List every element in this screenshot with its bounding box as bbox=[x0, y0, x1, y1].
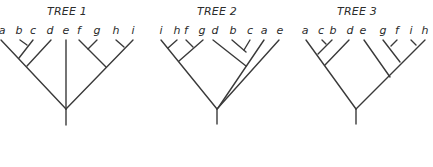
tree-title: TREE 1 bbox=[47, 5, 87, 18]
leaf-label-f: f bbox=[77, 24, 83, 37]
leaf-label-i: i bbox=[131, 24, 134, 37]
leaf-label-b: b bbox=[330, 24, 337, 37]
branches bbox=[161, 40, 279, 124]
tree-title: TREE 3 bbox=[337, 5, 377, 18]
leaf-label-g: g bbox=[380, 24, 387, 37]
leaf-label-h: h bbox=[113, 24, 120, 37]
leaf-label-d: d bbox=[347, 24, 355, 37]
leaf-labels: abcdefghi bbox=[0, 24, 135, 37]
leaf-label-i: i bbox=[409, 24, 412, 37]
branch-line bbox=[322, 40, 326, 44]
leaf-label-e: e bbox=[277, 24, 284, 37]
leaf-label-d: d bbox=[47, 24, 55, 37]
leaf-label-c: c bbox=[30, 24, 36, 37]
branch-line bbox=[213, 40, 246, 66]
branches bbox=[1, 40, 133, 125]
branch-line bbox=[66, 40, 133, 109]
leaf-label-c: c bbox=[247, 24, 253, 37]
leaf-label-a: a bbox=[0, 24, 6, 37]
branch-line bbox=[411, 40, 416, 45]
branch-line bbox=[364, 40, 390, 77]
branch-line bbox=[1, 40, 66, 109]
phylogenetic-trees-diagram: TREE 1 abcdefghi TREE 2 ihfgdbcae TREE 3… bbox=[0, 0, 433, 167]
tree-2: TREE 2 ihfgdbcae bbox=[159, 5, 283, 124]
branch-line bbox=[116, 40, 124, 47]
branches bbox=[306, 40, 425, 124]
leaf-label-f: f bbox=[184, 24, 190, 37]
leaf-label-a: a bbox=[261, 24, 268, 37]
tree-3: TREE 3 acbdegfih bbox=[302, 5, 429, 124]
leaf-label-c: c bbox=[318, 24, 324, 37]
branch-line bbox=[306, 40, 356, 109]
branch-line bbox=[383, 40, 400, 62]
branch-line bbox=[391, 40, 397, 46]
branch-line bbox=[168, 40, 177, 48]
leaf-label-h: h bbox=[422, 24, 429, 37]
branch-line bbox=[244, 40, 250, 50]
leaf-label-e: e bbox=[63, 24, 70, 37]
leaf-label-h: h bbox=[174, 24, 181, 37]
branch-line bbox=[179, 40, 203, 61]
branch-line bbox=[20, 40, 27, 45]
leaf-label-d: d bbox=[212, 24, 220, 37]
leaf-labels: acbdegfih bbox=[302, 24, 429, 37]
leaf-label-i: i bbox=[159, 24, 162, 37]
leaf-label-a: a bbox=[302, 24, 309, 37]
branch-line bbox=[161, 40, 217, 109]
leaf-label-b: b bbox=[230, 24, 237, 37]
branch-line bbox=[19, 40, 33, 58]
branch-line bbox=[88, 40, 97, 49]
tree-title: TREE 2 bbox=[197, 5, 237, 18]
leaf-label-g: g bbox=[199, 24, 206, 37]
leaf-label-g: g bbox=[94, 24, 101, 37]
leaf-label-f: f bbox=[395, 24, 401, 37]
tree-1: TREE 1 abcdefghi bbox=[0, 5, 135, 125]
leaf-labels: ihfgdbcae bbox=[159, 24, 283, 37]
branch-line bbox=[186, 40, 193, 47]
leaf-label-e: e bbox=[360, 24, 367, 37]
leaf-label-b: b bbox=[16, 24, 23, 37]
